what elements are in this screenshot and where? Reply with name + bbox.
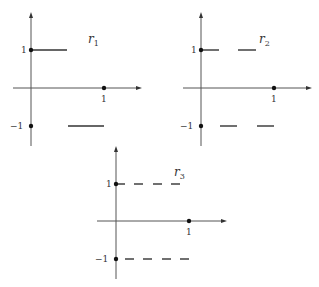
point bbox=[102, 86, 106, 90]
point bbox=[29, 48, 33, 52]
y-axis-arrow-icon bbox=[199, 12, 203, 18]
point bbox=[187, 219, 191, 223]
y-axis-arrow-icon bbox=[29, 12, 33, 18]
x-tick-1: 1 bbox=[186, 227, 192, 237]
panel-r2: 1 −1 1 r2 bbox=[180, 12, 312, 146]
panel-r1: 1 −1 1 r1 bbox=[10, 12, 142, 146]
y-tick-1: 1 bbox=[106, 179, 112, 189]
point bbox=[199, 48, 203, 52]
rademacher-diagram: 1 −1 1 r1 1 −1 1 r2 bbox=[0, 0, 319, 287]
panel-label: r2 bbox=[259, 32, 270, 48]
point bbox=[272, 86, 276, 90]
x-tick-1: 1 bbox=[101, 94, 107, 104]
x-axis-arrow-icon bbox=[221, 219, 227, 223]
point bbox=[199, 124, 203, 128]
y-axis-arrow-icon bbox=[114, 146, 118, 152]
y-tick-neg1: −1 bbox=[10, 121, 23, 131]
point bbox=[114, 182, 118, 186]
y-tick-neg1: −1 bbox=[95, 254, 108, 264]
x-tick-1: 1 bbox=[271, 94, 277, 104]
x-axis-arrow-icon bbox=[136, 86, 142, 90]
y-tick-1: 1 bbox=[21, 45, 27, 55]
y-tick-1: 1 bbox=[191, 45, 197, 55]
panel-label: r3 bbox=[174, 165, 185, 181]
y-tick-neg1: −1 bbox=[180, 121, 193, 131]
panel-r3: 1 −1 1 r3 bbox=[95, 146, 227, 279]
point bbox=[114, 257, 118, 261]
panel-label: r1 bbox=[88, 32, 99, 48]
point bbox=[29, 124, 33, 128]
x-axis-arrow-icon bbox=[306, 86, 312, 90]
